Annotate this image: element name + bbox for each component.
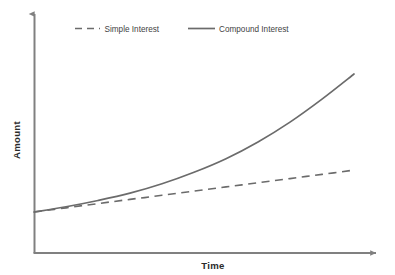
legend-label-simple-interest: Simple Interest (105, 25, 160, 34)
y-axis-title: Amount (11, 120, 22, 159)
legend-item-compound-interest[interactable]: Compound Interest (188, 25, 289, 34)
series-group (34, 74, 354, 212)
chart-canvas: Amount Time Simple Interest Compound Int… (0, 0, 395, 275)
interest-growth-chart: Amount Time Simple Interest Compound Int… (0, 0, 395, 275)
legend-item-simple-interest[interactable]: Simple Interest (75, 25, 160, 34)
x-axis-title: Time (201, 260, 224, 271)
series-line-simple-interest (34, 170, 354, 212)
chart-legend: Simple Interest Compound Interest (75, 25, 289, 34)
legend-label-compound-interest: Compound Interest (219, 25, 289, 34)
axis-group (34, 14, 377, 253)
series-line-compound-interest (34, 74, 354, 212)
